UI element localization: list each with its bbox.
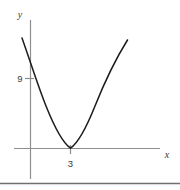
x-tick-label-3: 3 (68, 158, 73, 169)
y-tick-label-9: 9 (17, 73, 22, 84)
parabola-chart: y x 9 3 (0, 0, 180, 190)
x-axis-label: x (164, 149, 170, 160)
y-axis-label: y (17, 9, 23, 20)
chart-background (0, 0, 180, 190)
